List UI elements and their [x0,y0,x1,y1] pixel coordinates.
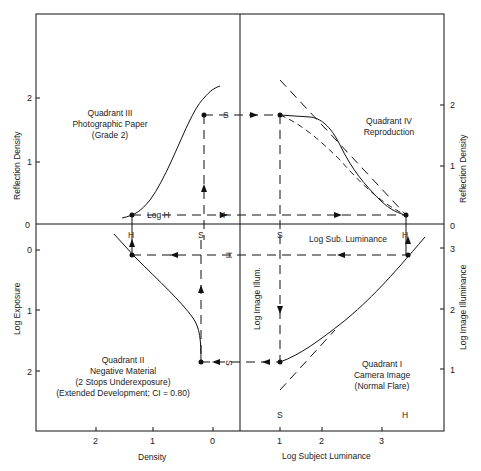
tick-label: 1 [27,306,32,316]
h-marker-right: H [402,230,408,240]
tick-label: 2 [450,100,455,110]
tick-label: 2 [27,93,32,103]
tick-label: 0 [450,221,455,231]
tick-label: 0 [210,436,215,446]
s-top-label: S [223,110,229,120]
log-sub-luminance-label: Log Sub. Luminance [309,234,387,244]
tick-label: 2 [93,436,98,446]
quadrant-1-label: Quadrant I Camera Image (Normal Flare) [354,359,410,391]
svg-text:Quadrant I: Quadrant I [362,359,402,369]
camera-ideal-line [280,330,335,390]
tick-label: 1 [450,365,455,375]
s-marker-bottom: S [277,410,283,420]
svg-text:(Extended Development; CI = 0.: (Extended Development; CI = 0.80) [56,388,190,398]
svg-text:Reproduction: Reproduction [364,127,415,137]
svg-text:Quadrant IV: Quadrant IV [366,116,412,126]
log-image-illum-label: Log Image Illum. [252,267,262,330]
paper-curve [122,86,220,218]
negative-curve [114,234,201,362]
tone-reproduction-diagram: 2 1 0 Reflection Density 0 1 2 Log Expos… [0,0,481,471]
svg-text:(2 Stops Underexposure): (2 Stops Underexposure) [76,377,171,387]
left-top-ticks: 2 1 0 [25,93,40,230]
svg-text:(Normal Flare): (Normal Flare) [355,381,410,391]
svg-text:Photographic Paper: Photographic Paper [72,119,147,129]
tick-label: 3 [450,244,455,254]
svg-text:Quadrant III: Quadrant III [88,108,133,118]
log-h-label: Log H [147,210,170,220]
h-rotated-label: H [224,252,234,258]
tick-label: 2 [450,305,455,315]
svg-text:Quadrant II: Quadrant II [102,355,145,365]
right-top-axis-label: Reflection Density [458,134,468,203]
s-marker-left: S [198,230,204,240]
tick-label: 0 [25,220,30,230]
svg-text:Negative Material: Negative Material [90,366,156,376]
h-marker-left: H [128,230,134,240]
right-bottom-axis-label: Log Image Illuminance [458,264,468,350]
svg-text:(Grade 2): (Grade 2) [92,130,129,140]
s-rotated-label: S [224,360,234,366]
right-top-ticks: 2 1 0 [440,100,455,231]
tick-label: 1 [27,157,32,167]
s-marker-top: S [277,230,283,240]
quadrant-3-label: Quadrant III Photographic Paper (Grade 2… [72,108,147,140]
h-label: H [219,210,225,220]
tick-label: 3 [379,436,384,446]
camera-curve [280,237,425,362]
svg-text:Camera Image: Camera Image [354,370,410,380]
bottom-left-axis-label: Density [138,452,167,462]
bottom-right-axis-label: Log Subject Luminance [282,451,371,461]
tick-label: 2 [27,367,32,377]
bottom-left-ticks: 2 1 0 [93,427,215,446]
tick-label: 0 [27,245,32,255]
quadrant-2-label: Quadrant II Negative Material (2 Stops U… [56,355,190,398]
left-bottom-axis-label: Log Exposure [12,282,22,335]
tick-label: 1 [277,436,282,446]
quadrant-4-label: Quadrant IV Reproduction [364,116,415,137]
tick-label: 2 [319,436,324,446]
ideal-reproduction-line [280,80,406,215]
bottom-right-ticks: 1 2 3 [277,427,384,446]
right-bottom-ticks: 3 2 1 [440,244,455,375]
h-marker-bottom: H [402,410,408,420]
left-top-axis-label: Reflection Density [12,131,22,200]
tick-label: 1 [450,161,455,171]
tick-label: 1 [150,436,155,446]
left-bottom-ticks: 0 1 2 [27,245,40,377]
